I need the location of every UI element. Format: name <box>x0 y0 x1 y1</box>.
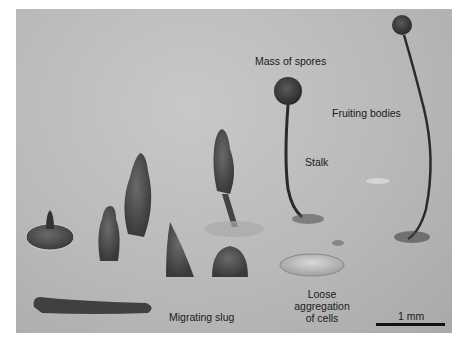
label-fruiting-bodies: Fruiting bodies <box>332 107 401 119</box>
micrograph-photo <box>16 9 452 333</box>
label-migrating-slug: Migrating slug <box>169 311 234 323</box>
micrograph-illustration <box>16 9 452 333</box>
scale-bar-label: 1 mm <box>398 310 424 322</box>
label-loose-aggregation: Loose aggregation of cells <box>293 288 351 324</box>
label-stalk: Stalk <box>305 156 328 168</box>
label-mass-of-spores: Mass of spores <box>255 55 326 67</box>
label-loose-line3: of cells <box>293 312 351 324</box>
scale-bar-line <box>376 323 445 326</box>
label-loose-line2: aggregation <box>293 300 351 312</box>
label-loose-line1: Loose <box>293 288 351 300</box>
